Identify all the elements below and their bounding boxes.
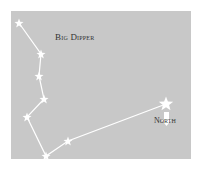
star-icon <box>42 152 51 161</box>
constellation-diagram <box>0 0 201 172</box>
polaris-star-icon <box>159 97 173 111</box>
star-icon <box>64 137 73 146</box>
star-icon <box>35 72 44 81</box>
star-icon <box>15 19 24 28</box>
north-label: North <box>154 117 176 125</box>
constellation-lines <box>19 23 166 156</box>
constellation-title: Big Dipper <box>55 33 94 42</box>
